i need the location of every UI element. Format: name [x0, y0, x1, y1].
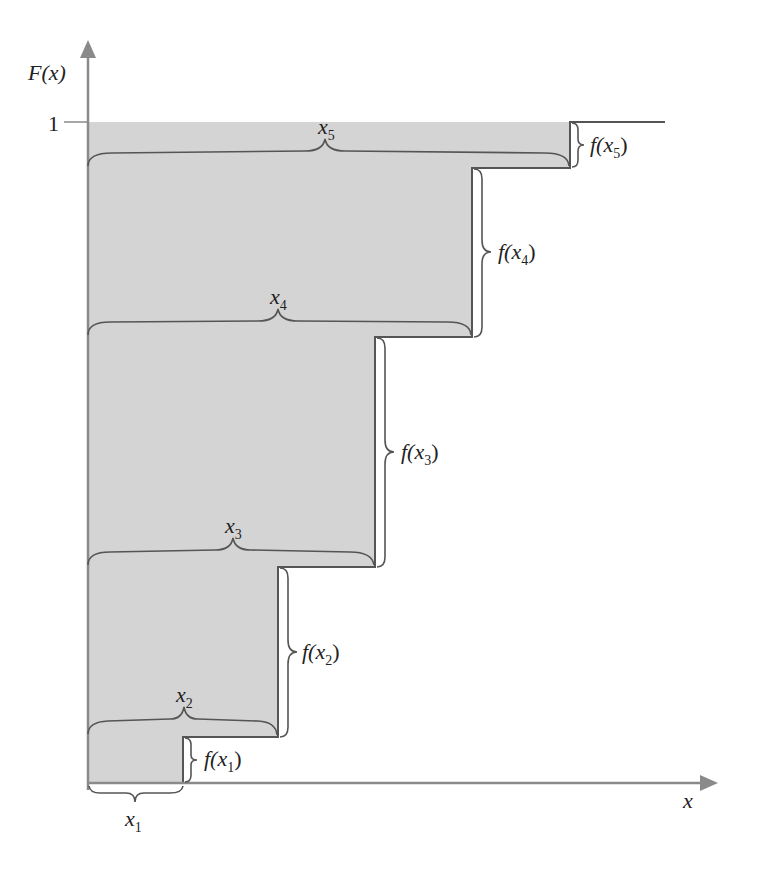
label-f4: f(x4) — [498, 239, 536, 268]
brace-x1 — [89, 786, 183, 802]
cdf-diagram: 1 F(x) x x1 x2 x3 x4 x5 f(x1) f(x2) f(x3… — [0, 0, 762, 870]
y-tick-label: 1 — [48, 111, 59, 136]
label-f3: f(x3) — [401, 439, 439, 468]
brace-f4 — [474, 169, 491, 337]
label-f2: f(x2) — [302, 639, 340, 668]
brace-f1 — [185, 738, 197, 782]
label-f5: f(x5) — [590, 132, 628, 161]
brace-f3 — [377, 338, 394, 567]
label-x1: x1 — [124, 806, 142, 835]
x-axis-label: x — [682, 788, 693, 813]
cdf-shaded-area — [88, 122, 570, 783]
brace-f5 — [572, 123, 584, 167]
y-axis-arrow-icon — [80, 40, 96, 58]
brace-f2 — [280, 568, 297, 737]
label-f1: f(x1) — [204, 746, 242, 775]
label-x5: x5 — [317, 114, 335, 143]
x-axis-arrow-icon — [700, 775, 718, 791]
y-axis-label: F(x) — [27, 60, 66, 85]
